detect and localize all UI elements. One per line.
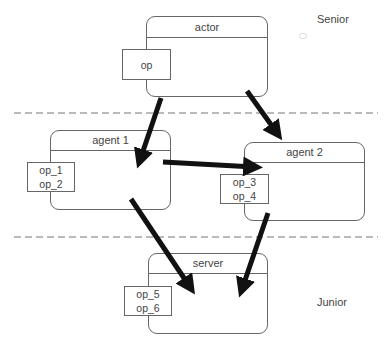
arrow-actor-to-agent2	[247, 91, 277, 133]
scribble-mark	[299, 33, 307, 39]
arrow-actor-to-agent1	[140, 98, 161, 160]
arrows	[0, 0, 388, 349]
arrow-agent2-to-server	[242, 213, 268, 289]
arrow-agent1-to-agent2	[163, 162, 254, 167]
arrow-agent1-to-server	[131, 199, 190, 287]
